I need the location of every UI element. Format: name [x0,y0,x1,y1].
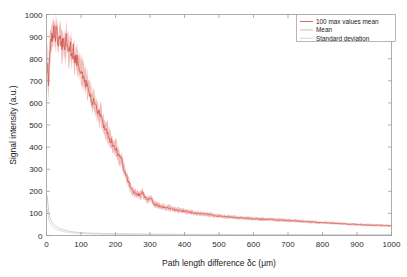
y-tick-label: 700 [29,77,43,86]
x-tick-label: 800 [316,240,330,249]
y-tick-label: 300 [29,165,43,174]
y-tick-label: 600 [29,99,43,108]
y-tick-label: 0 [38,232,43,241]
signal-intensity-chart: 01002003004005006007008009001000 0100200… [0,0,407,277]
legend-label-0: 100 max values mean [316,18,379,25]
y-tick-label: 100 [29,209,43,218]
x-tick-label: 100 [74,240,88,249]
legend-label-1: Mean [316,26,332,33]
legend-label-2: Standard deviation [316,35,370,42]
y-tick-label: 800 [29,55,43,64]
chart-legend[interactable]: 100 max values meanMeanStandard deviatio… [297,15,396,42]
y-tick-label: 400 [29,143,43,152]
y-axis-title: Signal intensity (a.u.) [8,85,18,165]
x-tick-label: 200 [109,240,123,249]
y-tick-label: 500 [29,121,43,130]
x-tick-label: 900 [350,240,364,249]
y-tick-label: 200 [29,187,43,196]
x-tick-label: 1000 [383,240,401,249]
x-tick-label: 600 [247,240,261,249]
x-tick-label: 400 [178,240,192,249]
y-tick-label: 1000 [25,11,43,20]
x-tick-label: 300 [143,240,157,249]
figure-container: 01002003004005006007008009001000 0100200… [0,0,407,277]
x-tick-label: 500 [212,240,226,249]
x-axis-title: Path length difference δc (μm) [162,258,276,268]
x-tick-label: 700 [281,240,295,249]
y-tick-label: 900 [29,33,43,42]
x-tick-label: 0 [44,240,49,249]
